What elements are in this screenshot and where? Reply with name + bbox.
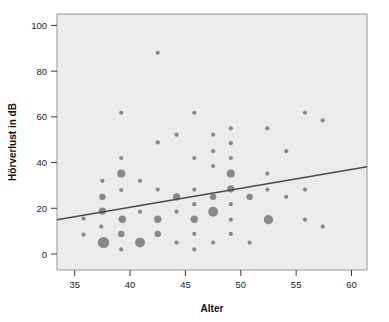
data-point <box>174 133 178 137</box>
data-point <box>98 237 109 248</box>
data-point <box>156 187 160 191</box>
data-point <box>265 187 269 191</box>
data-point <box>192 187 196 191</box>
y-tick-label: 40 <box>36 157 47 168</box>
data-point <box>211 133 215 137</box>
data-point <box>191 216 198 223</box>
y-axis-title: Hörverlust in dB <box>7 103 18 181</box>
data-point <box>119 156 123 160</box>
data-point <box>229 126 233 130</box>
data-point <box>211 240 215 244</box>
data-point <box>227 170 235 178</box>
data-point <box>192 232 196 236</box>
y-tick-label: 80 <box>36 66 47 77</box>
data-point <box>229 156 233 160</box>
data-point <box>303 187 307 191</box>
data-point <box>135 238 145 248</box>
data-point <box>284 195 288 199</box>
x-tick-label: 50 <box>235 279 246 290</box>
data-point <box>265 126 269 130</box>
y-tick-label: 20 <box>36 203 47 214</box>
data-point <box>192 202 196 206</box>
data-point <box>211 164 215 168</box>
data-point <box>174 240 178 244</box>
data-point <box>154 216 161 223</box>
data-point <box>119 111 123 115</box>
data-point <box>81 232 85 236</box>
data-point <box>119 216 126 223</box>
y-tick-label: 60 <box>36 111 47 122</box>
plot-area-background <box>57 14 367 270</box>
data-point <box>264 215 273 224</box>
data-point <box>192 156 196 160</box>
data-point <box>229 218 233 222</box>
x-tick-label: 40 <box>125 279 136 290</box>
data-point <box>210 194 216 200</box>
data-point <box>119 247 123 251</box>
data-point <box>321 118 325 122</box>
data-point <box>174 210 178 214</box>
data-point <box>119 188 123 192</box>
data-point <box>156 140 160 144</box>
x-tick-label: 45 <box>180 279 191 290</box>
data-point <box>81 216 85 220</box>
data-point <box>118 231 124 237</box>
data-point <box>248 240 252 244</box>
data-point <box>192 247 196 251</box>
data-point <box>155 231 161 237</box>
data-point <box>208 207 218 217</box>
data-point <box>211 149 215 153</box>
data-point <box>303 218 307 222</box>
data-point <box>284 149 288 153</box>
data-point <box>321 224 325 228</box>
data-point <box>99 194 105 200</box>
data-point <box>265 171 269 175</box>
x-tick-label: 60 <box>346 279 357 290</box>
data-point <box>138 210 142 214</box>
data-point <box>156 51 160 55</box>
data-point <box>229 232 233 236</box>
data-point <box>117 170 125 178</box>
data-point <box>138 179 142 183</box>
data-point <box>246 194 252 200</box>
x-tick-label: 35 <box>69 279 80 290</box>
data-point <box>229 202 233 206</box>
x-tick-label: 55 <box>291 279 302 290</box>
data-point <box>99 224 103 228</box>
y-tick-label: 0 <box>42 249 47 260</box>
chart-figure: 354045505560020406080100 Alter Hörverlus… <box>0 0 389 322</box>
data-point <box>229 141 233 145</box>
data-point <box>192 111 196 115</box>
data-point <box>100 179 104 183</box>
x-axis-title: Alter <box>201 303 224 314</box>
scatter-plot-svg: 354045505560020406080100 Alter Hörverlus… <box>0 0 389 322</box>
y-tick-label: 100 <box>31 20 47 31</box>
data-point <box>303 111 307 115</box>
